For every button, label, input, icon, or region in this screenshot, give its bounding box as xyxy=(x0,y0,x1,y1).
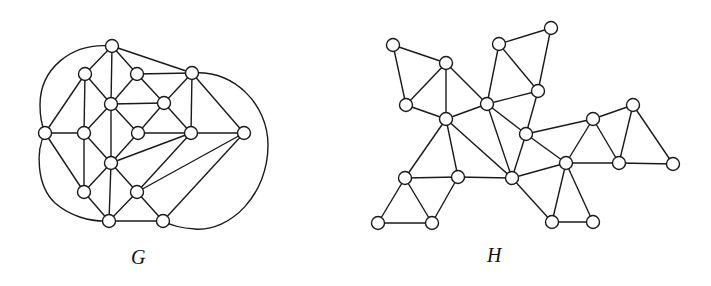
graph-g-vertex xyxy=(185,127,198,140)
graph-h-edge xyxy=(526,119,593,134)
graph-g-vertex xyxy=(79,68,92,81)
graph-h-edge xyxy=(619,163,673,164)
graph-g-edge xyxy=(45,74,85,133)
graph-h-vertex xyxy=(426,217,439,230)
graph-h-edge xyxy=(512,178,552,222)
graph-g-edge xyxy=(137,133,191,192)
graph-h-vertex xyxy=(440,57,453,70)
graph-h-edge xyxy=(446,63,487,104)
graph-h-vertex xyxy=(493,38,506,51)
graph-g-vertex xyxy=(105,98,118,111)
graph-h-vertex xyxy=(440,113,453,126)
graph-h-edge xyxy=(512,163,566,178)
graph-g-curved-edge xyxy=(163,73,268,229)
graph-g-vertex xyxy=(186,67,199,80)
graph-g-edge xyxy=(111,133,191,163)
graph-g-edge xyxy=(137,133,244,192)
graph-h-edge xyxy=(526,134,566,163)
graph-h-edge xyxy=(538,28,551,91)
graph-h-edge xyxy=(487,44,499,104)
graph-h-edge xyxy=(405,178,432,223)
graph-h-edge xyxy=(566,119,593,163)
graph-h-vertex xyxy=(400,99,413,112)
graph-h-vertex xyxy=(587,216,600,229)
graph-g xyxy=(39,40,269,230)
graph-h-edge xyxy=(458,177,512,178)
graph-h-vertex xyxy=(399,172,412,185)
graph-h-vertex xyxy=(532,85,545,98)
graph-h-edge xyxy=(432,177,458,223)
graph-g-curved-edge xyxy=(40,46,112,133)
graph-h-vertex xyxy=(627,99,640,112)
graph-h-edge xyxy=(499,44,538,91)
graph-g-vertex xyxy=(78,127,91,140)
graph-g-edge xyxy=(137,73,192,74)
graph-h-edge xyxy=(593,119,619,163)
graph-h-edge xyxy=(552,163,566,222)
graph-h-edge xyxy=(633,105,673,164)
graph-h-edge xyxy=(487,104,526,134)
graph-h-edge xyxy=(619,105,633,163)
graph-g-vertex xyxy=(106,40,119,53)
graph-g-vertex xyxy=(105,157,118,170)
graph-h-vertex xyxy=(452,171,465,184)
graph-h-edge xyxy=(406,63,446,105)
graph-g-vertex xyxy=(132,127,145,140)
graph-g-vertex xyxy=(131,68,144,81)
graph-h-edge xyxy=(378,178,405,223)
graph-g-edge xyxy=(111,103,164,104)
graph-h-edge xyxy=(499,28,551,44)
graph-h-vertex xyxy=(587,113,600,126)
graph-h-vertex xyxy=(506,172,519,185)
graph-g-vertex xyxy=(39,127,52,140)
graph-h-edges xyxy=(378,28,673,223)
graph-g-vertex xyxy=(238,127,251,140)
graph-figure xyxy=(0,0,711,286)
graph-h-vertex xyxy=(545,22,558,35)
graph-h-edge xyxy=(393,45,406,105)
graph-g-vertex xyxy=(103,215,116,228)
graph-h-label: H xyxy=(487,245,501,265)
graph-h-vertex xyxy=(560,157,573,170)
graph-h-vertex xyxy=(481,98,494,111)
graph-g-edge xyxy=(163,133,244,221)
graph-h-edge xyxy=(405,177,458,178)
graph-g-vertex xyxy=(158,97,171,110)
graph-g-vertex xyxy=(78,186,91,199)
graph-g-edge xyxy=(111,46,112,104)
graph-g-edge xyxy=(109,163,111,221)
graph-g-vertex xyxy=(131,186,144,199)
graph-h-vertex xyxy=(520,128,533,141)
graph-g-edge xyxy=(192,73,244,133)
graph-g-label: G xyxy=(131,247,145,267)
graph-h-edge xyxy=(405,119,446,178)
graph-h-edge xyxy=(393,45,446,63)
graph-g-edge xyxy=(45,133,84,192)
graph-h-vertex xyxy=(387,39,400,52)
graph-h xyxy=(372,22,680,230)
graph-g-edge xyxy=(191,73,192,133)
graph-h-vertex xyxy=(372,217,385,230)
graph-h-vertex xyxy=(613,157,626,170)
graph-g-edge xyxy=(84,74,85,133)
graph-h-edge xyxy=(566,163,593,222)
graph-h-edge xyxy=(487,91,538,104)
graph-h-vertex xyxy=(667,158,680,171)
graph-h-vertex xyxy=(546,216,559,229)
graph-g-vertex xyxy=(157,215,170,228)
